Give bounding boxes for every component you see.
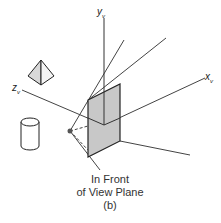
- figure-caption: In Front of View Plane (b): [40, 173, 180, 212]
- cylinder-icon: [21, 118, 39, 150]
- caption-line-2: of View Plane: [40, 186, 180, 199]
- projector-line-right: [120, 141, 190, 155]
- projector-line-upper-right: [88, 38, 166, 100]
- y-axis-label: yv: [97, 7, 105, 19]
- projection-reference-point: [68, 129, 73, 134]
- x-axis-label: xv: [205, 72, 213, 84]
- caption-line-1: In Front: [40, 173, 180, 186]
- caption-line-3: (b): [40, 199, 180, 212]
- pyramid-icon: [28, 60, 54, 85]
- z-axis-label: zv: [12, 83, 20, 95]
